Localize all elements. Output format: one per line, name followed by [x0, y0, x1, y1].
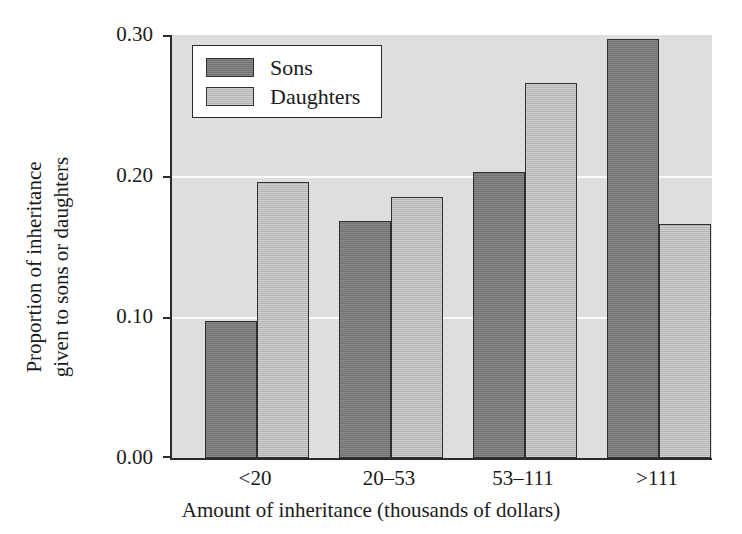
x-tick-label-lt20: <20 — [239, 466, 272, 490]
y-axis-title-line-2: given to sons or daughters — [48, 47, 75, 487]
y-tick-mark-0.20 — [163, 176, 172, 178]
legend-swatch-daughters-icon — [206, 87, 254, 106]
legend: Sons Daughters — [192, 45, 382, 118]
x-axis-tick-labels: <20 20–53 53–111 >111 — [170, 466, 710, 496]
y-tick-label-0.20: 0.20 — [116, 165, 153, 186]
y-tick-label-0.10: 0.10 — [116, 306, 153, 327]
plot-area: Sons Daughters — [170, 35, 712, 460]
legend-entry-daughters: Daughters — [193, 82, 381, 111]
legend-entry-sons: Sons — [193, 53, 381, 82]
x-tick-label-gt111: >111 — [636, 466, 678, 490]
y-tick-label-0.00: 0.00 — [116, 447, 153, 468]
bar-sons-gt111 — [607, 39, 659, 458]
legend-swatch-sons-icon — [206, 58, 254, 77]
x-tick-label-53-111: 53–111 — [492, 466, 553, 490]
y-axis-title-line-1: Proportion of inheritance — [21, 47, 48, 487]
y-tick-mark-0.10 — [163, 317, 172, 319]
legend-label-sons: Sons — [270, 56, 313, 80]
bar-sons-lt20 — [205, 321, 257, 458]
y-tick-label-0.30: 0.30 — [116, 24, 153, 45]
legend-label-daughters: Daughters — [270, 85, 360, 109]
bar-sons-53-111 — [473, 172, 525, 458]
bar-daughters-gt111 — [659, 224, 711, 458]
y-tick-mark-0.30 — [163, 35, 172, 37]
bar-sons-20-53 — [339, 221, 391, 458]
bar-daughters-lt20 — [257, 182, 309, 458]
bar-chart-figure: 0.30 0.20 0.10 0.00 — [0, 0, 742, 534]
bar-daughters-53-111 — [525, 83, 577, 458]
bar-daughters-20-53 — [391, 197, 443, 458]
y-axis-title: Proportion of inheritance given to sons … — [21, 47, 75, 487]
x-axis-title: Amount of inheritance (thousands of doll… — [0, 497, 742, 523]
y-tick-mark-0.00 — [163, 456, 172, 458]
x-tick-label-20-53: 20–53 — [363, 466, 416, 490]
